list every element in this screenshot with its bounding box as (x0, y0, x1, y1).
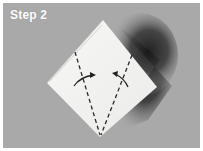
origami-illustration (3, 3, 200, 148)
step-photo: Step 2 (3, 3, 200, 148)
step-label: Step 2 (10, 8, 47, 22)
